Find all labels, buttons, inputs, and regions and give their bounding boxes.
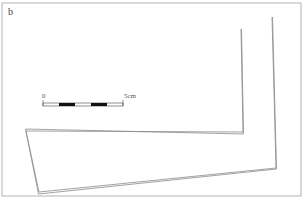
scale-start-label: 0 [42, 92, 46, 100]
scale-bar [43, 100, 123, 106]
figure-frame [2, 3, 301, 196]
scale-end-label: 5cm [124, 92, 136, 100]
panel-label: b [8, 6, 13, 17]
drawing-canvas [0, 0, 304, 209]
